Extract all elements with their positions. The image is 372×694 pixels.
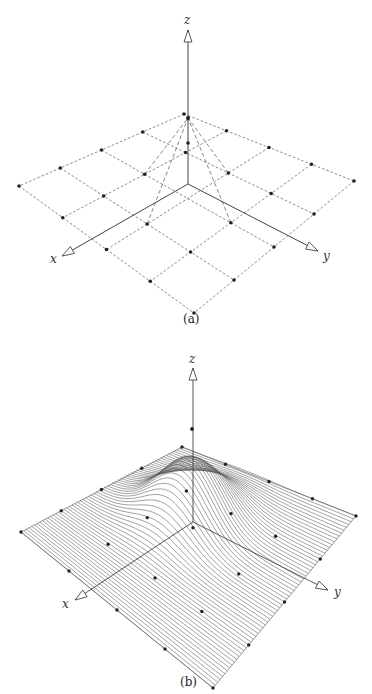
surface-isocurve [136,459,315,565]
arrowhead-icon [306,242,318,251]
surface-isocurve [99,490,282,605]
control-point [105,248,109,252]
control-point [229,512,232,515]
control-point [311,497,314,500]
raised-control-point [190,427,194,431]
surface-isocurve [48,518,237,660]
control-point [319,557,322,560]
control-point [211,686,214,689]
control-point [247,643,250,646]
surface-isocurve [153,462,330,548]
control-point [312,212,316,216]
figure-b-surface [19,368,357,690]
control-point [100,488,103,491]
surface-isocurve [69,506,256,636]
control-point [354,514,357,517]
control-point [61,216,65,220]
control-point [185,489,188,492]
fig-b-y-label: y [333,585,341,599]
raised-edge-line [188,118,231,223]
raised-edge-line [188,118,228,173]
surface-isocurve [45,519,234,662]
raised-edge-line [147,118,188,224]
control-point [143,172,147,176]
fig-a-z-label: z [183,13,191,27]
control-point [180,445,183,448]
control-point [148,279,152,283]
control-point [58,166,62,170]
surface-isocurve [53,515,241,654]
surface-isocurve [107,478,289,596]
control-point [269,192,273,196]
control-point [145,222,149,226]
control-point [186,141,190,145]
fig-b-z-label: z [188,352,196,366]
control-point [267,146,271,150]
arrowhead-icon [75,590,87,600]
fig-a-y-label: y [322,249,330,263]
control-point [17,184,21,188]
arrowhead-icon [184,30,192,42]
control-point [100,148,104,152]
control-point [102,194,106,198]
control-point [189,250,193,254]
control-point [227,171,231,175]
control-point [141,130,145,134]
raised-control-point [186,116,190,120]
control-point [182,112,186,116]
control-point [225,129,229,133]
surface-isocurve [40,522,230,668]
figure-canvas: z x y z x y [0,0,372,694]
figure-a-caption: (a) [183,312,200,326]
control-point [140,467,143,470]
figure-b-caption: (b) [180,675,197,689]
surface-isocurve [67,508,254,640]
y-axis [188,184,318,251]
figure-a-control-net [17,30,356,315]
control-point [191,526,194,529]
control-point [146,516,149,519]
control-point [232,278,236,282]
control-point [184,151,188,155]
surface-isocurve [134,458,313,568]
control-point [67,569,70,572]
control-point [115,608,118,611]
raised-edge-line [145,118,188,174]
control-point [237,572,240,575]
control-point [267,480,270,483]
x-axis [75,522,193,600]
control-point [153,576,156,579]
surface-isocurve [24,531,216,686]
control-point [274,535,277,538]
control-point [60,509,63,512]
control-point [310,162,314,166]
arrowhead-icon [189,368,197,380]
arrowhead-icon [315,581,328,590]
control-point [352,179,356,183]
control-point [163,647,166,650]
fig-a-x-label: x [50,252,57,266]
fig-b-x-label: x [62,597,69,611]
control-point [229,221,233,225]
x-axis [62,184,188,256]
control-point [224,463,227,466]
control-point [272,245,276,249]
control-point [106,543,109,546]
control-point [283,600,286,603]
surface-isocurve [77,502,263,628]
control-point [19,530,22,533]
arrowhead-icon [62,247,74,256]
surface-isocurve [64,509,251,642]
control-point [200,610,203,613]
surface-isocurve [179,448,353,519]
